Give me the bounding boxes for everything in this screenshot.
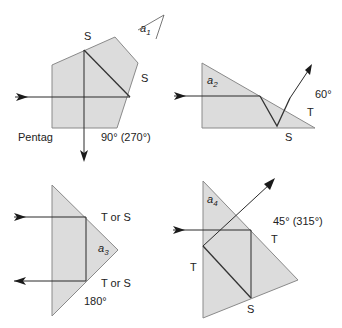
- surface-label-top: S: [84, 30, 91, 42]
- surface-label-upper: T or S: [101, 211, 131, 223]
- pentaprism-shape: [52, 37, 138, 128]
- panel-prism-a4: a4 T T S 45° (315°): [173, 178, 323, 318]
- deviation-label-2: 60°: [315, 88, 332, 100]
- surface-label-lower: T or S: [101, 277, 131, 289]
- panel-pentaprism: S S a1 Pentag 90° (270°): [15, 15, 164, 162]
- surface-label-right: T: [307, 106, 314, 118]
- prism-diagram: S S a1 Pentag 90° (270°) a2 S T 60° T or…: [0, 0, 342, 328]
- panel-prism-a2: a2 S T 60°: [174, 63, 332, 143]
- pentaprism-name-label: Pentag: [18, 131, 53, 143]
- deviation-label-1: 90° (270°): [101, 131, 151, 143]
- deviation-label-3: 180°: [84, 295, 107, 307]
- surface-label-right: S: [141, 72, 148, 84]
- surface-label-right: T: [271, 233, 278, 245]
- surface-label-bottom: S: [285, 131, 292, 143]
- panel-prism-a3: T or S a3 T or S 180°: [14, 185, 131, 316]
- deviation-label-4: 45° (315°): [273, 215, 323, 227]
- angle-label-a1: a1: [140, 22, 151, 37]
- surface-label-left: T: [190, 261, 197, 273]
- surface-label-bottom: S: [247, 303, 254, 315]
- output-ray: [290, 68, 310, 98]
